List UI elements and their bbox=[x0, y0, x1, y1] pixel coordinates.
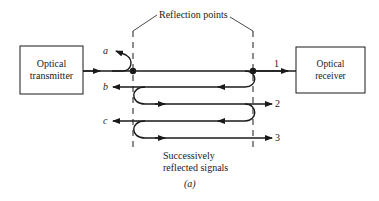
signal-c-label: c bbox=[103, 115, 107, 126]
signal-1-label: 1 bbox=[274, 58, 279, 69]
reflection-points-label: Reflection points bbox=[159, 9, 228, 20]
transmitter-label-line2: transmitter bbox=[20, 70, 83, 82]
signal-b-label: b bbox=[103, 81, 108, 92]
figure-caption: (a) bbox=[184, 178, 196, 189]
leader-right bbox=[230, 17, 253, 31]
receiver-label-line1: Optical bbox=[296, 58, 365, 70]
loop-left-1 bbox=[134, 87, 145, 104]
bottom-label-line1: Successively bbox=[163, 150, 228, 162]
signal-2-label: 2 bbox=[275, 98, 280, 109]
signal-a-label: a bbox=[103, 45, 108, 56]
receiver-label-line2: receiver bbox=[296, 70, 365, 82]
bottom-label-line2: reflected signals bbox=[163, 162, 228, 174]
loop-left-2 bbox=[134, 121, 145, 138]
transmitter-label: Optical transmitter bbox=[20, 58, 83, 82]
leader-left bbox=[133, 15, 157, 31]
signal-a-path bbox=[112, 51, 131, 71]
receiver-label: Optical receiver bbox=[296, 58, 365, 82]
signal-3-label: 3 bbox=[275, 132, 280, 143]
successively-reflected-label: Successively reflected signals bbox=[163, 150, 228, 174]
transmitter-label-line1: Optical bbox=[20, 58, 83, 70]
reflection-point-left bbox=[130, 68, 136, 74]
